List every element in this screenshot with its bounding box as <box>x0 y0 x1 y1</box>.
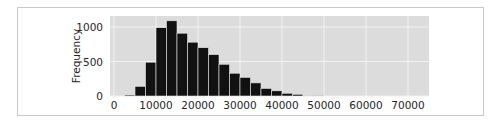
histogram-bar <box>209 55 220 96</box>
histogram-bar <box>303 95 314 96</box>
histogram-bar <box>230 73 241 96</box>
histogram-bar <box>156 28 167 96</box>
x-tick-label: 0 <box>111 99 118 111</box>
histogram-bar <box>177 33 188 96</box>
x-tick-label: 30000 <box>223 99 256 111</box>
histogram-bar <box>261 88 272 96</box>
y-tick-label: 500 <box>83 56 103 68</box>
histogram-bar <box>125 95 136 96</box>
x-tick-label: 60000 <box>349 99 382 111</box>
x-tick-label: 10000 <box>139 99 172 111</box>
histogram-bar <box>135 86 146 96</box>
x-tick-label: 50000 <box>307 99 340 111</box>
histogram-bar <box>198 48 209 96</box>
y-tick-label: 0 <box>96 90 103 102</box>
histogram-bar <box>272 91 283 96</box>
x-tick-label: 70000 <box>391 99 424 111</box>
histogram-bar <box>293 94 304 96</box>
histogram-bar <box>146 62 157 96</box>
histogram-bar <box>240 77 251 96</box>
histogram-bar <box>251 83 262 96</box>
histogram-chart: 010000200003000040000500006000070000 050… <box>0 0 501 125</box>
y-axis-label: Frequency <box>70 29 82 83</box>
x-tick-label: 20000 <box>181 99 214 111</box>
histogram-bar <box>188 42 199 96</box>
histogram-bar <box>282 93 293 96</box>
histogram-bar <box>219 64 230 96</box>
histogram-bar <box>167 21 178 96</box>
x-tick-label: 40000 <box>265 99 298 111</box>
x-axis-ticks: 010000200003000040000500006000070000 <box>111 99 425 111</box>
